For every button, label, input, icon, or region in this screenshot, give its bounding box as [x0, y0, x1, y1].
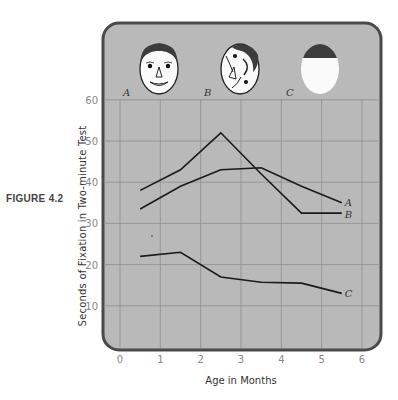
x-tick-label: 3 [238, 354, 244, 365]
x-tick-label: 5 [318, 354, 324, 365]
x-tick-label: 6 [359, 354, 365, 365]
stray-dot [151, 235, 153, 237]
stimulus-label-b: B [203, 87, 211, 98]
series-label-c: C [345, 288, 353, 299]
x-tick-label: 2 [197, 354, 203, 365]
stimulus-label-a: A [122, 87, 130, 98]
x-tick-label: 1 [157, 354, 163, 365]
stimulus-face-b [221, 44, 259, 94]
stimulus-face-a [140, 44, 178, 94]
chart-canvas: 0123456102030405060 ABC ABC [0, 0, 398, 400]
x-tick-label: 0 [117, 354, 123, 365]
series-label-a: A [344, 197, 352, 208]
y-tick-label: 50 [85, 136, 98, 147]
y-tick-label: 20 [85, 260, 98, 271]
stimulus-label-c: C [286, 87, 294, 98]
y-tick-label: 10 [85, 301, 98, 312]
y-tick-label: 60 [85, 95, 98, 106]
y-tick-label: 40 [85, 177, 98, 188]
y-tick-label: 30 [85, 218, 98, 229]
series-label-b: B [344, 209, 352, 220]
x-tick-label: 4 [278, 354, 284, 365]
